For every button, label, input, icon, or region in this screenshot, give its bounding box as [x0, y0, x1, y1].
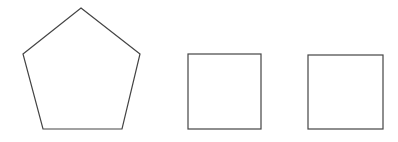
square-2-shape: [308, 55, 383, 129]
square-1-shape: [188, 54, 261, 129]
shapes-canvas: [0, 0, 398, 142]
shapes-svg: [0, 0, 398, 142]
pentagon-shape: [23, 8, 140, 129]
